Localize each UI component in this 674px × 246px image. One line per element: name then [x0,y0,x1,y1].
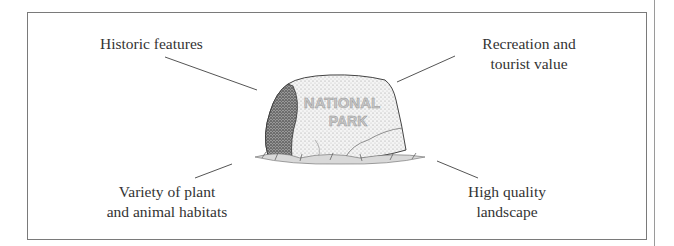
leader-line-historic [165,57,257,90]
label-line: Recreation and [454,34,604,54]
label-line: tourist value [454,54,604,74]
boulder-inscription-line-1: NATIONAL [304,94,380,111]
label-historic-features: Historic features [100,34,203,54]
label-line: High quality [457,182,557,202]
label-high-quality-landscape: High quality landscape [457,182,557,222]
label-line: Historic features [100,34,203,54]
boulder-icon: NATIONAL PARK [255,75,425,164]
label-variety-habitats: Variety of plant and animal habitats [92,182,242,222]
leader-line-recreation [397,56,455,82]
leader-line-variety [195,164,232,178]
label-line: Variety of plant [92,182,242,202]
boulder-inscription-line-2: PARK [329,113,368,129]
label-line: and animal habitats [92,202,242,222]
label-recreation-tourist-value: Recreation and tourist value [454,34,604,74]
leader-line-quality [437,161,478,178]
label-line: landscape [457,202,557,222]
